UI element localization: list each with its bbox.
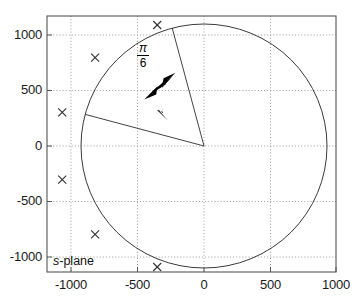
ytick-label-0: 0 bbox=[0, 138, 42, 153]
angle-label: π 6 bbox=[137, 42, 149, 69]
plot-background bbox=[47, 16, 336, 272]
xtick-label-1000: 1000 bbox=[296, 277, 355, 292]
plane-label-rest: -plane bbox=[59, 254, 94, 268]
angle-numerator: π bbox=[137, 42, 149, 55]
angle-denominator: 6 bbox=[137, 55, 149, 69]
ytick-label--1000: -1000 bbox=[0, 249, 42, 264]
ytick-label-1000: 1000 bbox=[0, 27, 42, 42]
ytick-label--500: -500 bbox=[0, 193, 42, 208]
ytick-label-500: 500 bbox=[0, 82, 42, 97]
plane-label: s-plane bbox=[53, 254, 94, 268]
